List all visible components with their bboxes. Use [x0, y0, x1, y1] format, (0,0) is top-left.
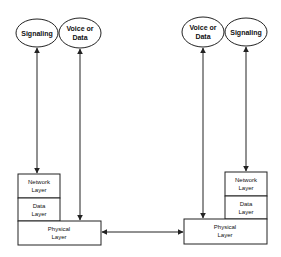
left-data-layer-box: Data Layer: [18, 198, 60, 221]
left-signaling-ellipse: Signaling: [16, 19, 58, 47]
left-physical-label-line1: Physical: [48, 226, 70, 232]
right-stack: Voice or Data Signaling Network Layer Da…: [182, 17, 267, 244]
right-network-layer-box: Network Layer: [225, 172, 267, 196]
left-voice-label-line2: Data: [72, 34, 87, 41]
protocol-stack-diagram: Signaling Voice or Data Network Layer Da…: [0, 0, 281, 257]
right-data-layer-box: Data Layer: [225, 196, 267, 219]
left-network-label-line2: Layer: [31, 187, 46, 193]
left-voice-label-line1: Voice or: [66, 25, 93, 32]
left-physical-label-line2: Layer: [51, 234, 66, 240]
left-data-label-line2: Layer: [31, 211, 46, 217]
left-physical-layer-box: Physical Layer: [18, 221, 101, 245]
right-physical-label-line2: Layer: [217, 232, 232, 238]
right-network-label-line2: Layer: [238, 185, 253, 191]
left-data-label-line1: Data: [33, 203, 46, 209]
right-network-label-line1: Network: [235, 177, 258, 183]
left-signaling-label: Signaling: [21, 30, 53, 38]
right-data-label-line1: Data: [240, 201, 253, 207]
right-physical-label-line1: Physical: [214, 224, 236, 230]
right-voice-label-line1: Voice or: [189, 24, 216, 31]
left-network-label-line1: Network: [28, 179, 51, 185]
right-physical-layer-box: Physical Layer: [184, 219, 267, 244]
right-signaling-label: Signaling: [230, 29, 262, 37]
right-voice-label-line2: Data: [195, 33, 210, 40]
right-voice-data-ellipse: Voice or Data: [182, 17, 224, 47]
right-signaling-ellipse: Signaling: [225, 18, 267, 46]
right-data-label-line2: Layer: [238, 209, 253, 215]
left-network-layer-box: Network Layer: [18, 174, 60, 198]
left-stack: Signaling Voice or Data Network Layer Da…: [16, 18, 101, 245]
left-voice-data-ellipse: Voice or Data: [59, 18, 101, 48]
